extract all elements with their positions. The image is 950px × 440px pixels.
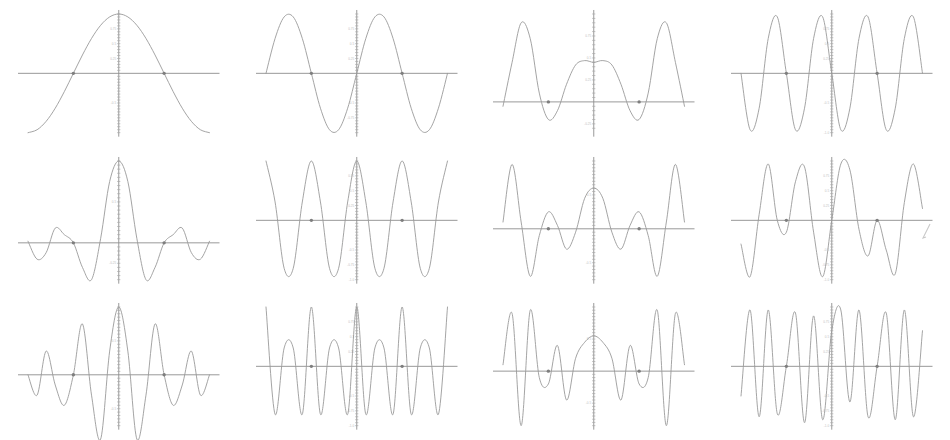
data-point-marker	[400, 218, 403, 221]
data-point-marker	[72, 241, 75, 244]
y-tick-label: -0.5	[111, 407, 117, 411]
y-tick-label: 0.25	[110, 57, 116, 61]
y-tick-label: 0.75	[585, 34, 591, 38]
data-point-marker	[162, 72, 165, 75]
data-point-marker	[784, 365, 787, 368]
y-tick-label: -0.5	[111, 101, 117, 105]
y-tick-label: 0.75	[823, 174, 829, 178]
y-tick-label: -0.25	[584, 122, 591, 126]
y-tick-label: -1.0	[348, 424, 354, 428]
data-point-marker	[162, 241, 165, 244]
y-tick-label: 0.25	[823, 203, 829, 207]
y-tick-label: -0.5	[823, 101, 829, 105]
plot-panel-12: -1.0-0.75-0.50.250.50.75	[713, 293, 950, 440]
y-tick-label: -1.0	[823, 424, 829, 428]
y-tick-label: -0.75	[822, 409, 829, 413]
data-point-marker	[72, 373, 75, 376]
y-tick-label: 0.5	[349, 188, 354, 192]
y-tick-label: -0.5	[348, 248, 354, 252]
data-point-marker	[400, 365, 403, 368]
plot-grid: -0.50.250.50.75-0.75-0.50.250.50.75-0.25…	[0, 0, 950, 440]
y-tick-label: -0.5	[586, 402, 592, 406]
data-point-marker	[784, 72, 787, 75]
y-tick-label: 0.25	[348, 57, 354, 61]
y-tick-label: -0.5	[823, 248, 829, 252]
y-tick-label: 0.5	[824, 188, 829, 192]
data-point-marker	[309, 365, 312, 368]
data-point-marker	[72, 72, 75, 75]
y-tick-label: 0.75	[823, 320, 829, 324]
data-point-marker	[400, 72, 403, 75]
y-tick-label: -0.75	[347, 263, 354, 267]
y-tick-label: 0.75	[110, 27, 116, 31]
plot-panel-3: -0.250.250.50.75	[475, 0, 713, 147]
y-tick-label: 0.75	[348, 320, 354, 324]
y-tick-label: 0.5	[587, 56, 592, 60]
y-tick-label: 0.5	[112, 200, 117, 204]
data-point-marker	[637, 100, 640, 103]
y-tick-label: 0.5	[112, 42, 117, 46]
y-tick-label: -0.75	[347, 116, 354, 120]
data-point-marker	[547, 227, 550, 230]
plot-panel-11: -0.50.5	[475, 293, 713, 440]
plot-panel-9: -0.50.5	[0, 293, 238, 440]
plot-panel-8: -1.0-0.75-0.50.250.50.75	[713, 147, 950, 294]
y-tick-label: 0.25	[823, 350, 829, 354]
y-tick-label: 0.75	[348, 174, 354, 178]
y-tick-label: -1.0	[348, 277, 354, 281]
y-tick-label: 0.75	[348, 27, 354, 31]
plot-panel-6: -1.0-0.75-0.50.250.50.75	[238, 147, 476, 294]
data-point-marker	[309, 72, 312, 75]
y-tick-label: 0.25	[585, 78, 591, 82]
y-tick-label: 0.25	[348, 203, 354, 207]
plot-panel-1: -0.50.250.50.75	[0, 0, 238, 147]
y-tick-label: 0.25	[348, 350, 354, 354]
data-point-marker	[162, 373, 165, 376]
plot-panel-4: -1.0-0.50.250.50.75	[713, 0, 950, 147]
plot-panel-2: -0.75-0.50.250.50.75	[238, 0, 476, 147]
plot-panel-7: -0.50.5	[475, 147, 713, 294]
data-point-marker	[309, 218, 312, 221]
y-tick-label: 0.5	[349, 42, 354, 46]
data-point-marker	[547, 370, 550, 373]
y-tick-label: 0.5	[587, 193, 592, 197]
y-tick-label: -0.25	[109, 261, 116, 265]
plot-panel-10: -1.0-0.75-0.50.250.50.75	[238, 293, 476, 440]
y-tick-label: 0.5	[824, 335, 829, 339]
y-tick-label: -1.0	[823, 277, 829, 281]
y-tick-label: -0.5	[586, 260, 592, 264]
data-point-marker	[637, 227, 640, 230]
data-point-marker	[784, 218, 787, 221]
data-point-marker	[637, 370, 640, 373]
data-point-marker	[875, 218, 878, 221]
y-tick-label: -1.0	[823, 131, 829, 135]
data-point-marker	[547, 100, 550, 103]
y-tick-label: 0.25	[823, 57, 829, 61]
y-tick-label: 0.75	[823, 27, 829, 31]
stray-pen-mark	[920, 222, 934, 242]
plot-panel-5: -0.250.5	[0, 147, 238, 294]
data-point-marker	[875, 72, 878, 75]
data-point-marker	[875, 365, 878, 368]
y-tick-label: 0.5	[112, 339, 117, 343]
